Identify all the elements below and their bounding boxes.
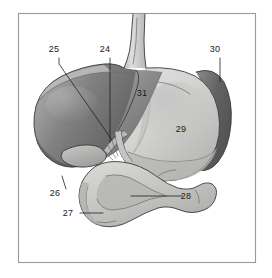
figure-container: 25 24 30 31 29 26 27 28 bbox=[0, 0, 272, 278]
label-30: 30 bbox=[210, 44, 220, 54]
label-31: 31 bbox=[137, 88, 147, 98]
label-27: 27 bbox=[63, 208, 73, 218]
label-29: 29 bbox=[176, 124, 186, 134]
label-24: 24 bbox=[100, 44, 110, 54]
anatomy-illustration: 25 24 30 31 29 26 27 28 bbox=[0, 0, 272, 278]
label-28: 28 bbox=[181, 191, 191, 201]
liver-highlight bbox=[46, 86, 98, 122]
label-26: 26 bbox=[50, 188, 60, 198]
label-25: 25 bbox=[49, 44, 59, 54]
